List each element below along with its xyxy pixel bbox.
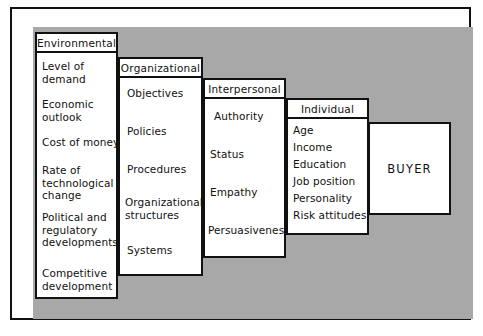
individual-header: Individual bbox=[286, 98, 369, 119]
interpersonal-item-3: Persuasiveness bbox=[208, 224, 288, 237]
organizational-item-0: Objectives bbox=[127, 87, 203, 100]
individual-item-5: Risk attitudes bbox=[293, 209, 373, 222]
environmental-item-5: Competitive development bbox=[42, 267, 120, 292]
individual-item-4: Personality bbox=[293, 192, 369, 205]
environmental-header: Environmental bbox=[35, 32, 118, 53]
organizational-item-1: Policies bbox=[127, 125, 203, 138]
organizational-item-4: Systems bbox=[127, 244, 203, 257]
interpersonal-item-1: Status bbox=[210, 148, 286, 161]
individual-item-0: Age bbox=[293, 124, 369, 137]
organizational-item-2: Procedures bbox=[127, 163, 203, 176]
environmental-item-2: Cost of money bbox=[42, 136, 120, 149]
organizational-item-3: Organizational structures bbox=[125, 196, 205, 221]
interpersonal-item-0: Authority bbox=[214, 110, 290, 123]
individual-header-label: Individual bbox=[301, 103, 354, 115]
diagram-canvas: Environmental Level of demand Economic o… bbox=[0, 0, 483, 336]
interpersonal-item-2: Empathy bbox=[210, 186, 286, 199]
environmental-item-4: Political and regulatory developments bbox=[42, 211, 120, 249]
buyer-label: BUYER bbox=[387, 162, 432, 176]
buyer-box: BUYER bbox=[368, 122, 451, 215]
individual-item-1: Income bbox=[293, 141, 369, 154]
environmental-header-label: Environmental bbox=[37, 37, 116, 49]
environmental-item-3: Rate of technological change bbox=[42, 164, 118, 202]
organizational-header-label: Organizational bbox=[121, 62, 200, 74]
interpersonal-header: Interpersonal bbox=[203, 78, 286, 99]
organizational-header: Organizational bbox=[118, 57, 203, 78]
environmental-item-0: Level of demand bbox=[42, 60, 118, 85]
interpersonal-header-label: Interpersonal bbox=[208, 83, 281, 95]
environmental-item-1: Economic outlook bbox=[42, 98, 118, 123]
individual-item-2: Education bbox=[293, 158, 369, 171]
individual-item-3: Job position bbox=[293, 175, 369, 188]
